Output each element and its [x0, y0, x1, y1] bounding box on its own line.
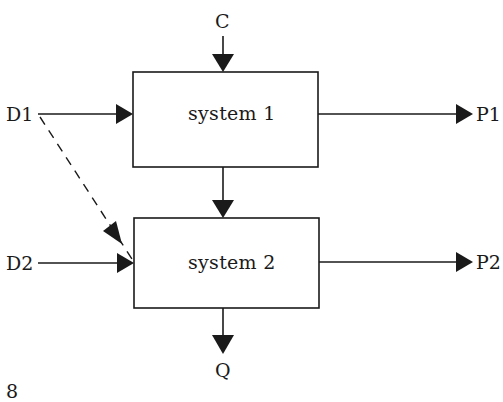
system-2-label: system 2 — [188, 253, 276, 272]
arrow-d2-to-system-2 — [38, 253, 134, 273]
arrow-system-2-to-p2 — [319, 252, 473, 272]
arrow-c-to-system-1 — [212, 36, 234, 72]
input-d1-label: D1 — [6, 105, 33, 124]
dashed-arrow-d1-to-system-2 — [40, 117, 132, 259]
page-number: 8 — [6, 382, 18, 401]
output-q-label: Q — [215, 361, 231, 380]
output-p1-label: P1 — [476, 105, 501, 124]
arrow-system-1-to-p1 — [318, 104, 473, 124]
arrow-system-1-to-system-2 — [212, 167, 234, 218]
arrow-system-2-to-q — [212, 308, 234, 354]
system-1-label: system 1 — [188, 104, 276, 123]
output-p2-label: P2 — [476, 253, 501, 272]
input-d2-label: D2 — [6, 254, 33, 273]
input-c-label: C — [215, 12, 230, 31]
arrow-d1-to-system-1 — [38, 104, 133, 124]
